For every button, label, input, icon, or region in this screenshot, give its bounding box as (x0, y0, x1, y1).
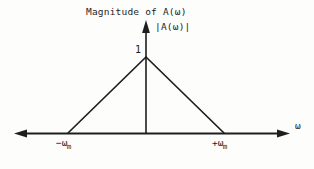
tick-right-sign: +ω (212, 137, 223, 148)
y-axis-label: |A(ω)| (155, 22, 191, 32)
x-axis-arrow-left-icon (14, 130, 27, 138)
x-axis-label: ω (295, 121, 301, 131)
x-tick-label-positive-omega-m: +ωm (212, 138, 227, 151)
peak-value-label: 1 (135, 45, 141, 55)
x-tick-label-negative-omega-m: −ωm (56, 138, 71, 151)
x-axis-arrow-right-icon (277, 130, 290, 138)
tick-left-subscript: m (67, 142, 72, 151)
y-axis-arrow-up-icon (142, 20, 150, 33)
triangle-right-edge (146, 57, 224, 133)
triangle-left-edge (68, 57, 146, 133)
y-axis (142, 20, 150, 134)
tick-right-subscript: m (223, 142, 228, 151)
magnitude-spectrum-figure: Magnitude of A(ω) |A(ω)| 1 ω −ωm +ωm (0, 0, 314, 169)
tick-left-sign: −ω (56, 137, 67, 148)
chart-title: Magnitude of A(ω) (86, 7, 187, 17)
